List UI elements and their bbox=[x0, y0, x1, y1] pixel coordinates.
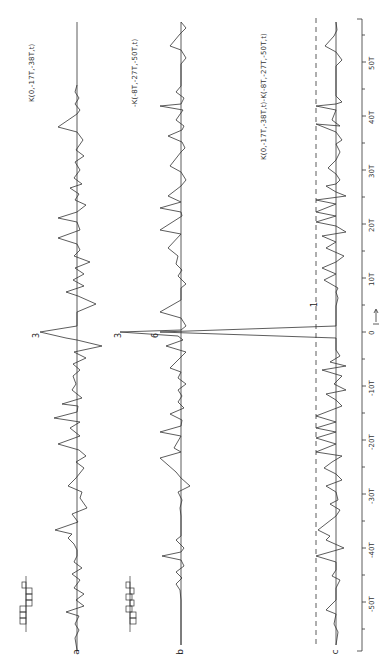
tick-label-20T: 20T bbox=[368, 219, 376, 232]
time-axis-ticks bbox=[357, 19, 366, 651]
time-arrow-icon bbox=[373, 309, 379, 324]
tick-label-30T: 30T bbox=[368, 165, 376, 178]
tick-label-neg30T: -30T bbox=[368, 488, 376, 504]
tick-label-neg40T: -40T bbox=[368, 542, 376, 558]
correlation-figure bbox=[0, 0, 390, 662]
tick-label-neg20T: -20T bbox=[368, 434, 376, 450]
trace-letter-a: a bbox=[71, 649, 81, 655]
peak-label-b: 3 bbox=[114, 333, 123, 338]
threshold-label: 1 bbox=[310, 302, 319, 307]
tick-label-50T: 50T bbox=[368, 57, 376, 70]
pulse-train-icon-b bbox=[126, 576, 136, 632]
trace-letter-b: b bbox=[175, 649, 185, 655]
trace-c-label: K(0,-17T,-38T,t)-K(-8T,-27T,-50T,t) bbox=[260, 33, 268, 160]
tick-label-neg50T: -50T bbox=[368, 596, 376, 612]
trace-a-waveform bbox=[40, 85, 102, 650]
tick-label-40T: 40T bbox=[368, 111, 376, 124]
trace-c-waveform bbox=[160, 22, 346, 645]
trace-b-label: -K(-8T,-27T,-50T,t) bbox=[131, 39, 139, 107]
trace-a-label: K(0,-17T,-38T,t) bbox=[28, 43, 36, 102]
peak-label-a: 3 bbox=[32, 333, 41, 338]
peak-label-c: 6 bbox=[151, 333, 160, 338]
tick-label-0: 0 bbox=[368, 331, 376, 335]
trace-letter-c: c bbox=[330, 650, 340, 655]
pulse-train-icon-a bbox=[20, 576, 32, 632]
tick-label-neg10T: -10T bbox=[368, 380, 376, 396]
tick-label-10T: 10T bbox=[368, 273, 376, 286]
